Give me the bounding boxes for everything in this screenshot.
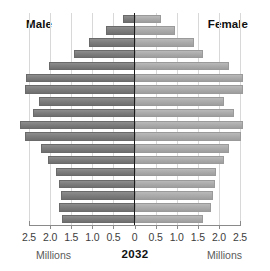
bar-male xyxy=(26,74,134,82)
bar-male xyxy=(33,109,135,117)
bar-male xyxy=(20,121,135,129)
x-axis-tick xyxy=(71,225,72,229)
bar-male xyxy=(89,38,135,46)
bar-female xyxy=(135,132,242,140)
bar-female xyxy=(135,74,244,82)
x-axis-tick xyxy=(50,225,51,229)
x-axis-tick xyxy=(135,225,136,229)
bar-female xyxy=(135,191,213,199)
year-label: 2032 xyxy=(0,248,270,260)
x-axis-tick xyxy=(240,221,241,226)
bar-female xyxy=(135,26,176,34)
population-pyramid-chart: Male Female 2.52.01.51.00.500.51.01.52.0… xyxy=(0,0,270,271)
bar-female xyxy=(135,180,215,188)
bar-female xyxy=(135,121,244,129)
bar-male xyxy=(49,62,135,70)
bar-female xyxy=(135,38,195,46)
x-axis-tick xyxy=(219,225,220,229)
bar-female xyxy=(135,97,225,105)
bar-male xyxy=(48,156,135,164)
x-axis-tick xyxy=(113,225,114,229)
bar-male xyxy=(74,50,134,58)
zero-axis-line xyxy=(134,13,135,225)
x-axis-tick xyxy=(198,225,199,229)
bar-male xyxy=(39,97,135,105)
bar-male xyxy=(56,168,135,176)
x-axis-tick xyxy=(156,225,157,229)
bar-male xyxy=(25,85,134,93)
bar-male xyxy=(59,180,135,188)
bar-female xyxy=(135,62,230,70)
bar-male xyxy=(62,215,135,223)
x-axis-tick xyxy=(92,225,93,229)
bar-female xyxy=(135,168,216,176)
bar-female xyxy=(135,85,243,93)
bar-male xyxy=(41,144,134,152)
x-axis-tick-label: 2.5 xyxy=(227,231,253,243)
bar-female xyxy=(135,15,161,23)
plot-area xyxy=(29,13,240,225)
bar-female xyxy=(135,156,224,164)
bar-female xyxy=(135,50,204,58)
bar-female xyxy=(135,144,230,152)
bar-male xyxy=(61,191,135,199)
bar-male xyxy=(123,15,135,23)
bar-male xyxy=(25,132,135,140)
bar-male xyxy=(106,26,134,34)
bar-male xyxy=(59,203,134,211)
gridline xyxy=(240,13,241,225)
bar-female xyxy=(135,203,212,211)
bar-female xyxy=(135,109,234,117)
x-axis-tick xyxy=(177,225,178,229)
bar-female xyxy=(135,215,204,223)
